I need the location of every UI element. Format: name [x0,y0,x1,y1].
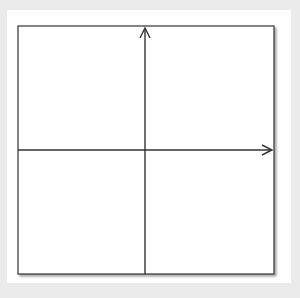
coordinate-plane [0,0,300,298]
